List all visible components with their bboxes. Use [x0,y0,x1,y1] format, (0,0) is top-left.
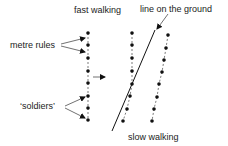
middle-column [121,31,134,123]
soldier-dot [157,82,161,86]
soldier-dot [86,81,90,85]
soldier-dot [130,69,134,73]
soldiers-arrows [65,97,85,118]
metre-rule [152,109,154,121]
left-column [86,31,90,122]
soldier-dot [160,70,164,74]
metre-rule [162,60,164,72]
soldier-dot [86,106,90,110]
soldier-dot [121,119,125,123]
soldier-dot [152,107,156,111]
metre-rule [123,109,127,121]
metre-rule [166,35,168,48]
soldier-dot [155,95,159,99]
soldier-dot [86,94,90,98]
soldier-dot [86,118,90,122]
soldier-dot [86,31,90,35]
soldier-dot [164,46,168,50]
metre-rule [157,84,159,97]
soldier-dot [125,107,129,111]
soldier-dot [130,56,134,60]
diagram-canvas [0,0,228,146]
soldier-dot [128,94,132,98]
soldier-dot [130,31,134,35]
metre-rules-arrows [61,38,85,52]
right-column [150,33,170,123]
soldier-dot [86,56,90,60]
ground-line-pointer [157,14,168,29]
metre-rule [159,72,162,84]
soldier-dot [150,119,154,123]
soldier-dot [86,43,90,47]
metre-rule [164,48,166,60]
soldier-dot [130,43,134,47]
soldier-dot [86,69,90,73]
metre-rule [127,96,130,109]
soldier-dot [130,82,134,86]
soldier-dot [162,58,166,62]
metre-rule [154,97,157,109]
soldier-dot [166,33,170,37]
